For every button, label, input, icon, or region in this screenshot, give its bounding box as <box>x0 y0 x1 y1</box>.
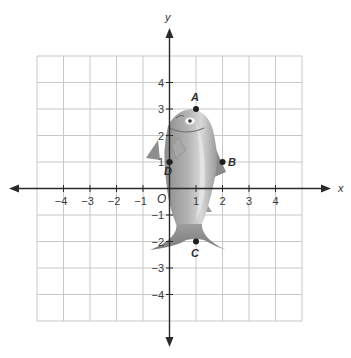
x-tick-label: 4 <box>272 195 278 207</box>
point-a <box>193 106 199 112</box>
x-tick-label: −1 <box>134 195 147 207</box>
y-axis-label: y <box>164 11 172 23</box>
x-tick-label: −2 <box>108 195 121 207</box>
y-tick-label: 4 <box>158 77 164 89</box>
y-tick-label: −2 <box>151 236 164 248</box>
x-tick-label: 2 <box>219 195 225 207</box>
x-tick-label: −4 <box>55 195 68 207</box>
y-tick-label: 3 <box>158 103 164 115</box>
y-axis-down-arrow-icon <box>166 337 174 347</box>
x-tick-label: −3 <box>81 195 94 207</box>
y-tick-label: −4 <box>151 289 164 301</box>
point-b <box>220 159 226 165</box>
y-tick-label: −1 <box>151 209 164 221</box>
x-axis-right-arrow-icon <box>321 185 331 193</box>
axes <box>9 28 331 347</box>
point-a-label: A <box>190 91 199 103</box>
x-axis-left-arrow-icon <box>9 185 19 193</box>
y-tick-label: 2 <box>158 130 164 142</box>
origin-label: O <box>157 192 166 206</box>
x-axis-label: x <box>337 182 344 194</box>
point-c <box>193 239 199 245</box>
x-tick-labels: −4 −3 −2 −1 1 2 3 4 <box>55 195 279 207</box>
point-c-label: C <box>191 247 200 259</box>
y-tick-label: −3 <box>151 262 164 274</box>
point-d-label: D <box>164 165 172 177</box>
x-tick-label: 3 <box>246 195 252 207</box>
point-b-label: B <box>228 156 236 168</box>
coordinate-plane: −4 −3 −2 −1 1 2 3 4 4 3 2 1 −1 −2 −3 −4 … <box>0 0 351 358</box>
y-axis-up-arrow-icon <box>166 28 174 38</box>
x-tick-label: 1 <box>193 195 199 207</box>
